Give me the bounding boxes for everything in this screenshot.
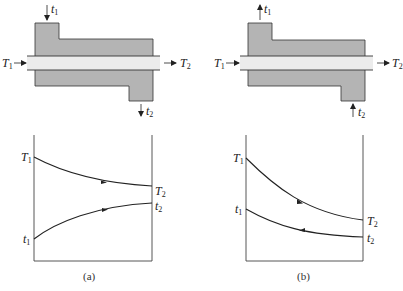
graph-b-label-t1: t1 [235,203,242,217]
label-hot-out-b: T2 [392,57,403,71]
label-cold-out-a: t2 [146,105,153,119]
graph-b [246,135,363,261]
graph-a-label-t1: t1 [23,233,30,247]
label-cold-out-b: t1 [264,3,271,17]
graph-a-label-T1: T1 [21,151,32,165]
caption-a: (a) [83,270,95,282]
cold-curve-b [246,209,363,237]
label-hot-out-a: T2 [180,57,191,71]
label-hot-in-b: T1 [214,57,225,71]
label-cold-in-b: t2 [358,106,365,120]
graph-b-label-T1: T1 [233,152,244,166]
graph-a [34,135,152,261]
hot-curve-b [246,158,363,220]
graph-a-label-t2: t2 [155,200,162,214]
caption-b: (b) [297,270,310,282]
cold-curve-a [34,203,152,239]
graph-a-label-T2: T2 [155,185,166,199]
tube-b [240,56,373,70]
exchanger-b [226,5,389,117]
graph-b-label-T2: T2 [367,215,378,229]
tube-a [27,56,160,70]
figure-canvas [0,0,403,291]
exchanger-a [14,5,176,116]
hot-curve-a [34,157,152,186]
label-cold-in-a: t1 [51,3,58,17]
label-hot-in-a: T1 [2,57,13,71]
graph-b-label-t2: t2 [367,232,374,246]
